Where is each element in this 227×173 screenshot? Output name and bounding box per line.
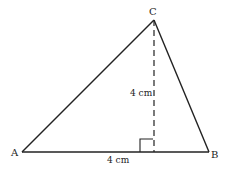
- side-ac: [22, 20, 154, 152]
- vertex-label-a: A: [10, 147, 19, 158]
- triangle-diagram: A B C 4 cm 4 cm: [0, 0, 227, 173]
- vertex-label-b: B: [211, 149, 218, 160]
- base-label: 4 cm: [107, 155, 130, 165]
- side-bc: [154, 20, 209, 152]
- height-label: 4 cm: [130, 88, 153, 98]
- vertex-label-c: C: [149, 6, 157, 17]
- right-angle-marker: [140, 139, 153, 152]
